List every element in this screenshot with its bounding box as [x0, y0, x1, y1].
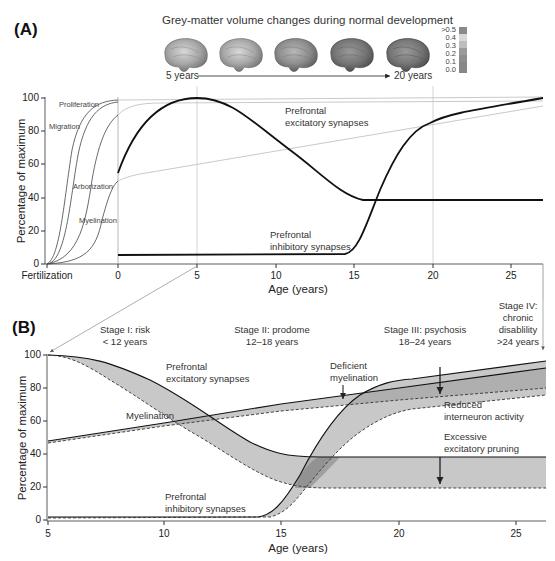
excitatory-label-a-2: excitatory synapses: [285, 117, 369, 128]
inhibitory-label-a-2: inhibitory synapses: [270, 241, 351, 252]
brain-image-4: [331, 39, 374, 72]
x-axis-title-a: Age (years): [268, 283, 328, 295]
excessive-pruning-label-2: excitatory pruning: [444, 443, 519, 454]
y-axis-title-b: Percentage of maximum: [16, 376, 28, 501]
excitatory-label-b-2: excitatory synapses: [166, 373, 250, 384]
timeline-start: 5 years: [166, 70, 199, 81]
x-tick-label: 5: [194, 270, 200, 281]
x-tick-label: 25: [510, 528, 522, 539]
x-tick-label: 5: [45, 528, 51, 539]
stage-4-line3: disablility: [499, 324, 538, 335]
y-tick-label: 100: [22, 92, 39, 103]
y-tick-label: 40: [28, 192, 40, 203]
brain-title: Grey-matter volume changes during normal…: [162, 14, 454, 26]
x-tick-label: 20: [393, 528, 405, 539]
excitatory-curve-a: [118, 98, 543, 200]
stage-labels: Stage I: risk < 12 years Stage II: prodo…: [100, 300, 539, 347]
y-tick-label: 60: [28, 158, 40, 169]
y-tick-label: 40: [30, 448, 42, 459]
x-axis-title-b: Age (years): [268, 542, 328, 554]
stage-2-title: Stage II: prodome: [234, 324, 310, 335]
myelination-label-b: Myelination: [126, 410, 174, 421]
x-tick-label: 15: [275, 528, 287, 539]
stage-3-range: 18–24 years: [399, 336, 452, 347]
excitatory-label-b-1: Prefrontal: [166, 361, 207, 372]
arborization-postnatal: [118, 101, 543, 115]
x-ticks-b: 5 10 15 20 25: [45, 521, 522, 539]
figure-canvas: (A) Grey-matter volume changes during no…: [0, 0, 555, 561]
excessive-pruning-label-1: Excessive: [444, 431, 487, 442]
x-tick-label: 20: [427, 270, 439, 281]
inhibitory-label-a-1: Prefrontal: [270, 229, 311, 240]
y-tick-label: 20: [28, 225, 40, 236]
y-tick-label: 80: [30, 382, 42, 393]
timeline-end: 20 years: [394, 70, 432, 81]
colorbar-tick: 0.0: [446, 65, 456, 74]
y-tick-label: 80: [28, 125, 40, 136]
label-arborization: Arborization: [73, 182, 113, 191]
stage-1-range: < 12 years: [103, 336, 148, 347]
stage-4-range: >24 years: [497, 336, 539, 347]
y-tick-label: 100: [24, 349, 41, 360]
panel-b: (B) Stage I: risk < 12 years Stage II: p…: [12, 300, 546, 554]
label-myelination-a: Myelination: [79, 216, 117, 225]
reduced-interneuron-label-1: Reduced: [444, 399, 482, 410]
label-migration: Migration: [49, 122, 80, 131]
x-tick-label: 25: [505, 270, 517, 281]
label-proliferation: Proliferation: [59, 100, 99, 109]
reduced-interneuron-label-2: interneuron activity: [444, 411, 524, 422]
brain-image-1: [165, 39, 208, 72]
stage-2-range: 12–18 years: [246, 336, 299, 347]
y-tick-label: 0: [35, 514, 41, 525]
deficient-myelination-label-1: Deficient: [330, 360, 367, 371]
stage-1-title: Stage I: risk: [100, 324, 150, 335]
x-tick-label: Fertilization: [21, 270, 72, 281]
x-tick-label: 10: [158, 528, 170, 539]
panel-a-label: (A): [14, 20, 38, 39]
inhibitory-label-b-2: inhibitory synapses: [165, 503, 246, 514]
inhibitory-label-b-1: Prefrontal: [165, 491, 206, 502]
excitatory-label-a-1: Prefrontal: [285, 105, 326, 116]
brain-image-3: [275, 39, 318, 72]
x-tick-label: 0: [115, 270, 121, 281]
brain-image-2: [220, 39, 263, 72]
stage-4-line2: chronic: [503, 312, 534, 323]
colorbar: >0.5 0.4 0.3 0.2 0.1 0.0: [441, 25, 467, 74]
x-ticks-a: Fertilization 0 5 10 15 20 25: [21, 264, 517, 281]
x-tick-label: 10: [270, 270, 282, 281]
y-tick-label: 60: [30, 415, 42, 426]
y-axis-title-a: Percentage of maximum: [15, 119, 27, 244]
y-tick-label: 0: [33, 258, 39, 269]
panel-a: (A) Grey-matter volume changes during no…: [14, 14, 543, 352]
stage-4-title: Stage IV:: [499, 300, 538, 311]
x-tick-label: 15: [348, 270, 360, 281]
panel-b-label: (B): [12, 318, 36, 337]
deficient-myelination-label-2: myelination: [330, 372, 378, 383]
brain-images: [165, 39, 430, 72]
stage-3-title: Stage III: psychosis: [384, 324, 467, 335]
brain-image-5: [387, 39, 430, 72]
y-tick-label: 20: [30, 481, 42, 492]
